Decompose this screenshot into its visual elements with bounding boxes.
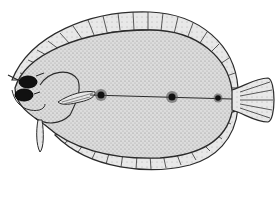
fish-drawing: [0, 0, 279, 199]
flatfish-illustration: [0, 0, 279, 199]
lower-eye: [15, 89, 33, 101]
pelvic-fin: [37, 120, 44, 152]
upper-eye: [19, 76, 37, 88]
